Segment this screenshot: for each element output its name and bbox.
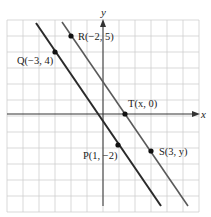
label-T: T(x, 0) [128, 98, 158, 110]
label-R: R(−2, 5) [78, 31, 114, 43]
label-S: S(3, y) [159, 146, 188, 158]
label-Q: Q(−3, 4) [17, 55, 54, 67]
point-S [148, 148, 153, 153]
x-axis-label: x [200, 108, 206, 120]
point-T [122, 111, 127, 116]
point-R [68, 33, 73, 38]
coordinate-plane: x y R(−2, 5) Q(−3, 4) T(x, 0) P(1, −2) S… [0, 0, 211, 217]
point-Q [52, 49, 57, 54]
label-P: P(1, −2) [83, 150, 118, 162]
y-axis-label: y [100, 6, 106, 18]
point-P [115, 142, 120, 147]
